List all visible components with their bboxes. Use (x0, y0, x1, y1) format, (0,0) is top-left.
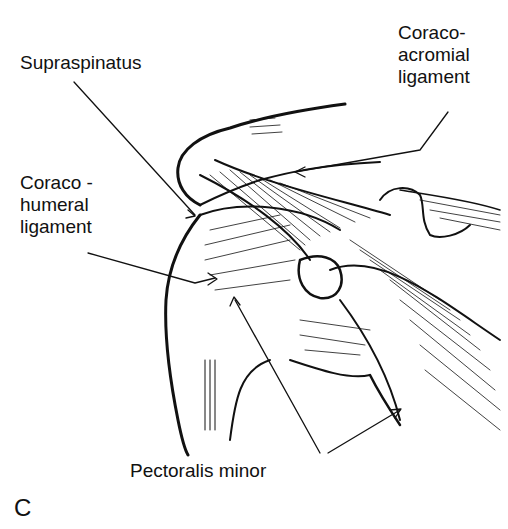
label-coracohumeral-ligament: Coraco - humeral ligament (20, 172, 93, 238)
label-coracoacromial-ligament: Coraco- acromial ligament (398, 22, 470, 88)
label-line: acromial (398, 44, 470, 66)
label-supraspinatus: Supraspinatus (20, 52, 141, 74)
label-line: ligament (20, 216, 93, 238)
label-pectoralis-minor: Pectoralis minor (130, 460, 266, 482)
label-line: ligament (398, 66, 470, 88)
label-line: Coraco - (20, 172, 93, 194)
label-line: Coraco- (398, 22, 470, 44)
anatomy-figure: Supraspinatus Coraco- acromial ligament … (0, 0, 508, 529)
panel-letter: C (14, 494, 31, 522)
label-line: humeral (20, 194, 93, 216)
